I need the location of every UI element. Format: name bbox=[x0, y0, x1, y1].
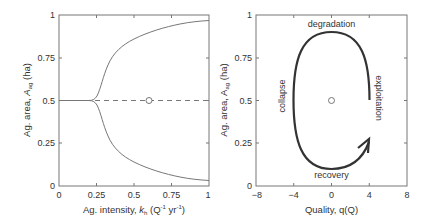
svg-text:4: 4 bbox=[367, 190, 372, 200]
right-yticklabels: 0 0.25 0.5 0.75 1 bbox=[234, 10, 252, 191]
left-ylabel: Ag. area, Aag (ha) bbox=[21, 63, 33, 137]
figure: 0 0.25 0.5 0.75 1 0 0.25 0.5 0.75 1 Ag. … bbox=[0, 0, 432, 224]
svg-text:0.25: 0.25 bbox=[88, 190, 106, 200]
svg-text:0.5: 0.5 bbox=[42, 96, 55, 106]
svg-text:0.75: 0.75 bbox=[234, 53, 252, 63]
svg-text:0.75: 0.75 bbox=[37, 53, 55, 63]
svg-text:−8: −8 bbox=[252, 190, 262, 200]
svg-text:8: 8 bbox=[404, 190, 409, 200]
right-ylabel: Ag. area, Aag (ha) bbox=[218, 63, 230, 136]
svg-text:0: 0 bbox=[56, 190, 61, 200]
left-yticklabels: 0 0.25 0.5 0.75 1 bbox=[37, 10, 55, 191]
annotation-recovery: recovery bbox=[314, 170, 349, 180]
right-equilibrium-marker bbox=[329, 98, 335, 104]
svg-text:0.5: 0.5 bbox=[239, 96, 252, 106]
annotation-degradation: degradation bbox=[308, 19, 356, 29]
svg-text:0.5: 0.5 bbox=[128, 190, 141, 200]
left-equilibrium-marker bbox=[146, 98, 152, 104]
left-xlabel: Ag. intensity, kh (Q-1 yr-1) bbox=[83, 204, 185, 216]
left-xticklabels: 0 0.25 0.5 0.75 1 bbox=[56, 190, 210, 200]
left-plot: 0 0.25 0.5 0.75 1 0 0.25 0.5 0.75 1 Ag. … bbox=[21, 10, 211, 216]
svg-text:0.25: 0.25 bbox=[234, 138, 252, 148]
lower-branch-line bbox=[59, 101, 209, 181]
svg-text:1: 1 bbox=[205, 190, 210, 200]
right-xlabel: Quality, q(Q) bbox=[305, 204, 358, 215]
right-plot: 0 0.25 0.5 0.75 1 −8 −4 0 4 8 Quality, q… bbox=[218, 10, 410, 215]
annotation-collapse: collapse bbox=[277, 79, 287, 112]
right-xticklabels: −8 −4 0 4 8 bbox=[252, 190, 410, 200]
svg-text:1: 1 bbox=[247, 10, 252, 20]
svg-text:1: 1 bbox=[50, 10, 55, 20]
annotation-exploitation: exploitation bbox=[374, 75, 384, 121]
svg-text:0: 0 bbox=[50, 181, 55, 191]
svg-text:0: 0 bbox=[329, 190, 334, 200]
svg-text:0.25: 0.25 bbox=[37, 138, 55, 148]
upper-branch-line bbox=[59, 21, 209, 101]
svg-text:−4: −4 bbox=[289, 190, 299, 200]
svg-text:0.75: 0.75 bbox=[163, 190, 181, 200]
